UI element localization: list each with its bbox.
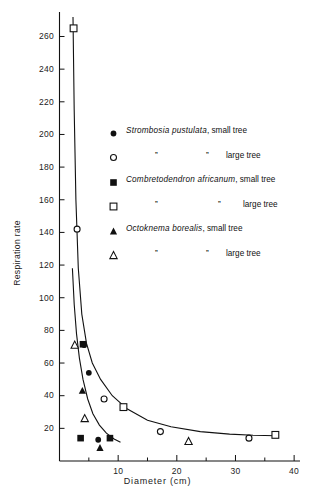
data-point [246, 435, 252, 441]
legend-marker-open-circle-icon [108, 152, 119, 163]
x-tick-label: 20 [163, 466, 191, 476]
x-axis-title: Diameter (cm) [0, 476, 315, 486]
legend-label: Combretodendron africanum, small tree [126, 175, 275, 184]
legend-row: ””large tree [108, 247, 308, 272]
x-tick-label: 40 [280, 466, 308, 476]
y-axis-title: Respiration rate [12, 205, 22, 301]
y-tick-marks [60, 36, 65, 428]
legend-ditto-mark: ” [206, 249, 209, 258]
y-tick-label: 220 [20, 97, 54, 107]
legend-row: Octoknema borealis, small tree [108, 222, 308, 247]
legend-label: large tree [226, 151, 261, 160]
legend-ditto-mark: ” [155, 151, 158, 160]
data-point [95, 437, 101, 443]
y-tick-label: 120 [20, 260, 54, 270]
legend-ditto-mark: ” [206, 151, 209, 160]
legend-marker-filled-circle-icon [108, 128, 119, 139]
y-tick-label: 80 [20, 325, 54, 335]
legend-row: Strombosia pustulata, small tree [108, 124, 308, 149]
legend-ditto-mark: ” [155, 200, 158, 209]
legend-species-name: Strombosia pustulata [126, 126, 207, 135]
data-point [120, 404, 127, 411]
y-tick-label: 20 [20, 423, 54, 433]
legend-row: Combretodendron africanum, small tree [108, 173, 308, 198]
y-tick-label: 100 [20, 293, 54, 303]
y-tick-label: 140 [20, 227, 54, 237]
y-tick-label: 180 [20, 162, 54, 172]
lower-fitted-curve [72, 268, 120, 442]
data-point [157, 429, 163, 435]
data-point [74, 226, 80, 232]
y-tick-label: 240 [20, 64, 54, 74]
data-point [70, 25, 77, 32]
data-point [81, 415, 88, 422]
data-point [101, 396, 107, 402]
y-tick-label: 200 [20, 129, 54, 139]
legend-row: ””large tree [108, 149, 308, 174]
legend-marker-open-triangle-icon [108, 250, 119, 261]
x-tick-label: 10 [104, 466, 132, 476]
legend-label: Octoknema borealis, small tree [126, 224, 242, 233]
legend-species-name: Octoknema borealis [126, 224, 202, 233]
data-point [80, 341, 87, 348]
y-tick-label: 260 [20, 31, 54, 41]
legend-ditto-mark: ” [218, 200, 221, 209]
data-point [96, 444, 103, 451]
data-point [185, 437, 192, 444]
data-point [86, 370, 92, 376]
data-point [272, 431, 279, 438]
y-tick-label: 40 [20, 390, 54, 400]
legend-marker-filled-square-icon [108, 177, 119, 188]
y-tick-label: 60 [20, 358, 54, 368]
legend-row: ””large tree [108, 198, 308, 223]
legend-marker-open-square-icon [108, 201, 119, 212]
data-point [107, 435, 114, 442]
legend-label: large tree [243, 200, 278, 209]
x-tick-label: 30 [221, 466, 249, 476]
figure-canvas: Respiration rate Diameter (cm) Strombosi… [0, 0, 315, 497]
legend-ditto-mark: ” [155, 249, 158, 258]
legend-species-name: Combretodendron africanum [126, 175, 235, 184]
x-tick-marks [89, 455, 294, 461]
legend: Strombosia pustulata, small tree””large … [108, 124, 308, 271]
legend-label: Strombosia pustulata, small tree [126, 126, 247, 135]
data-point [77, 435, 84, 442]
legend-label: large tree [226, 249, 261, 258]
legend-marker-filled-triangle-icon [108, 226, 119, 237]
y-tick-label: 160 [20, 195, 54, 205]
